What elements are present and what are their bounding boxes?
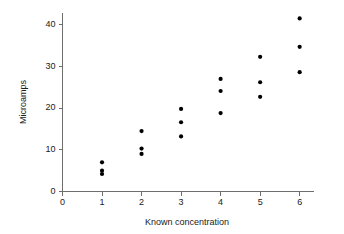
x-tick-label-6: 6 — [297, 197, 302, 207]
data-point — [298, 45, 302, 49]
x-tick-label-2: 2 — [139, 197, 144, 207]
axes — [63, 13, 314, 192]
x-tick-label-1: 1 — [100, 197, 105, 207]
data-point — [219, 111, 223, 115]
data-point — [258, 80, 262, 84]
y-tick-label-40: 40 — [45, 19, 55, 29]
data-point — [139, 146, 143, 150]
axis-tick-labels: 0102030400123456 — [45, 19, 302, 207]
data-point — [298, 16, 302, 20]
scatter-plot-figure: 0102030400123456 Known concentration Mic… — [0, 0, 344, 234]
x-tick-label-5: 5 — [258, 197, 263, 207]
data-point — [179, 134, 183, 138]
data-point — [100, 160, 104, 164]
x-axis-label: Known concentration — [145, 217, 229, 227]
data-point — [139, 129, 143, 133]
y-axis-label: Microamps — [18, 80, 28, 125]
data-point — [100, 172, 104, 176]
data-point — [258, 95, 262, 99]
data-point — [179, 120, 183, 124]
data-points — [100, 16, 302, 176]
axis-ticks — [59, 25, 300, 196]
y-tick-label-20: 20 — [45, 102, 55, 112]
data-point — [258, 55, 262, 59]
y-tick-label-0: 0 — [50, 186, 55, 196]
x-tick-label-0: 0 — [60, 197, 65, 207]
plot-canvas: 0102030400123456 Known concentration Mic… — [0, 0, 344, 234]
data-point — [298, 70, 302, 74]
y-tick-label-30: 30 — [45, 61, 55, 71]
data-point — [139, 152, 143, 156]
data-point — [219, 77, 223, 81]
data-point — [179, 107, 183, 111]
data-point — [219, 89, 223, 93]
x-tick-label-4: 4 — [218, 197, 223, 207]
x-tick-label-3: 3 — [179, 197, 184, 207]
y-tick-label-10: 10 — [45, 144, 55, 154]
